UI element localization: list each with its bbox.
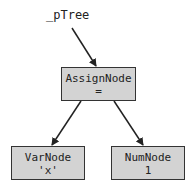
edge-ptree-to-assign bbox=[72, 28, 96, 66]
node-value: 1 bbox=[112, 164, 184, 177]
assign-node: AssignNode = bbox=[61, 67, 136, 101]
node-title: AssignNode bbox=[62, 72, 135, 85]
node-title: VarNode bbox=[12, 151, 84, 164]
edge-assign-to-var bbox=[52, 101, 81, 145]
edge-assign-to-num bbox=[114, 101, 143, 145]
node-title: NumNode bbox=[112, 151, 184, 164]
node-value: = bbox=[62, 85, 135, 98]
node-value: 'x' bbox=[12, 164, 84, 177]
var-node: VarNode 'x' bbox=[11, 146, 85, 180]
pointer-label: _pTree bbox=[46, 8, 89, 22]
num-node: NumNode 1 bbox=[111, 146, 185, 180]
